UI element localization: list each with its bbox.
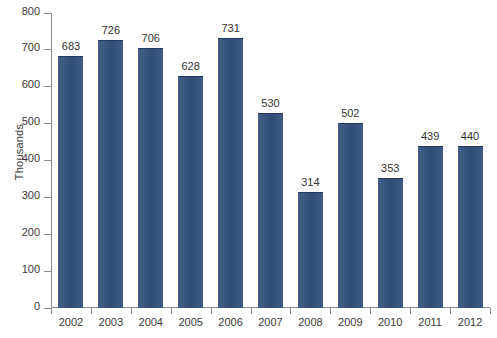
x-axis-tick (410, 308, 411, 314)
bar-value-label: 314 (287, 176, 333, 188)
y-axis-tick-label: 600 (22, 78, 40, 90)
x-axis-tick-label: 2004 (131, 316, 171, 328)
bar (338, 123, 363, 308)
bar-value-label: 440 (447, 130, 493, 142)
bar-value-label: 683 (48, 40, 94, 52)
y-axis-tick: 800 (44, 13, 51, 14)
y-axis-tick: 400 (44, 160, 51, 161)
x-axis-tick (251, 308, 252, 314)
bar-value-label: 353 (367, 162, 413, 174)
x-axis-tick-label: 2002 (51, 316, 91, 328)
bar (98, 40, 123, 308)
y-axis-tick: 500 (44, 123, 51, 124)
x-axis-tick (370, 308, 371, 314)
bar-value-label: 530 (248, 97, 294, 109)
x-axis-tick-label: 2007 (251, 316, 291, 328)
y-axis-tick-label: 500 (22, 115, 40, 127)
y-axis-tick-label: 400 (22, 152, 40, 164)
bar (258, 113, 283, 308)
bar (58, 56, 83, 308)
bar-value-label: 628 (168, 60, 214, 72)
x-axis-tick (91, 308, 92, 314)
y-axis-tick: 300 (44, 197, 51, 198)
x-axis-tick (131, 308, 132, 314)
y-axis-tick-label: 0 (34, 300, 40, 312)
y-axis-tick: 200 (44, 234, 51, 235)
x-axis-tick-label: 2006 (211, 316, 251, 328)
bar-value-label: 502 (327, 107, 373, 119)
x-axis-tick (490, 308, 491, 314)
bar-value-label: 731 (208, 22, 254, 34)
y-axis-tick-label: 100 (22, 263, 40, 275)
y-axis-tick-label: 700 (22, 41, 40, 53)
x-axis-tick (450, 308, 451, 314)
bar (378, 178, 403, 308)
bar (458, 146, 483, 308)
y-axis-tick: 100 (44, 271, 51, 272)
x-axis-tick-label: 2005 (171, 316, 211, 328)
x-axis-tick-label: 2010 (370, 316, 410, 328)
y-axis-tick: 600 (44, 86, 51, 87)
y-axis-tick-label: 200 (22, 226, 40, 238)
x-axis-tick (171, 308, 172, 314)
bar-chart-figure: Thousands 0100200300400500600700800 2002… (0, 0, 497, 338)
bar (138, 48, 163, 308)
bar (418, 146, 443, 308)
bar (178, 76, 203, 308)
x-axis-tick (51, 308, 52, 314)
y-axis-line (51, 13, 52, 308)
x-axis-tick-label: 2008 (290, 316, 330, 328)
y-axis-tick: 0 (44, 308, 51, 309)
y-axis-tick-label: 800 (22, 5, 40, 17)
x-axis-tick (330, 308, 331, 314)
x-axis-tick-label: 2009 (330, 316, 370, 328)
y-axis-tick-label: 300 (22, 189, 40, 201)
x-axis-tick-label: 2012 (450, 316, 490, 328)
x-axis-tick-label: 2003 (91, 316, 131, 328)
x-axis-tick (211, 308, 212, 314)
plot-area: 0100200300400500600700800 20022003200420… (51, 13, 490, 308)
x-axis-tick (290, 308, 291, 314)
x-axis-tick-label: 2011 (410, 316, 450, 328)
bar (218, 38, 243, 308)
bar-value-label: 706 (128, 32, 174, 44)
bar (298, 192, 323, 308)
